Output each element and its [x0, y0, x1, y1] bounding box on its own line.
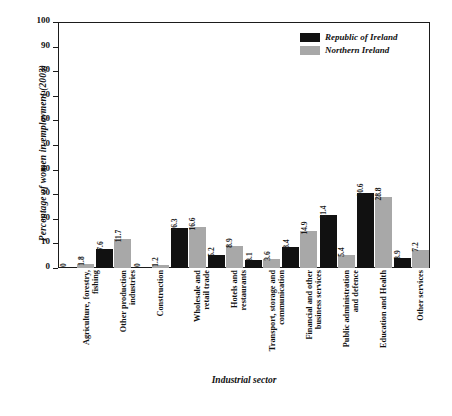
x-axis-category-labels: Agriculture, forestry, fishingOther prod…	[58, 270, 430, 370]
x-axis-category-label: Construction	[156, 270, 170, 366]
y-axis-tick-label: 60	[41, 113, 50, 123]
bar-value-label: 30.6	[356, 183, 365, 196]
bar-group: 21.45.4	[320, 22, 355, 268]
bar-value-label: 8.9	[225, 238, 234, 247]
bar-value-label: 21.4	[319, 206, 328, 219]
bar-northern-ireland: 11.7	[114, 239, 131, 268]
legend: Republic of Ireland Northern Ireland	[300, 32, 424, 58]
bar-republic-of-ireland: 3.1	[245, 260, 262, 268]
bar-republic-of-ireland: 7.6	[96, 249, 113, 268]
legend-label: Republic of Ireland	[325, 32, 398, 42]
y-axis-tick-mark	[53, 268, 58, 269]
bar-value-label: 3.6	[263, 251, 272, 260]
bar-value-label: 3.9	[393, 251, 402, 260]
bar-value-label: 1.2	[151, 257, 160, 266]
bar-value-label: 8.4	[282, 240, 291, 249]
y-axis-tick-label: 90	[41, 40, 50, 50]
bar-northern-ireland: 28.8	[375, 197, 392, 268]
x-axis-category-label: Wholesale and retail trade	[193, 270, 207, 366]
legend-label: Northern Ireland	[325, 45, 389, 55]
bar-group: 8.414.9	[282, 22, 317, 268]
bar-value-label: 0	[59, 263, 68, 267]
y-axis-tick-label: 20	[41, 212, 50, 222]
bar-republic-of-ireland: 30.6	[357, 193, 374, 268]
bar-northern-ireland: 7.2	[412, 250, 429, 268]
y-axis-tick-label: 80	[41, 64, 50, 74]
bar-northern-ireland: 1.8	[77, 264, 94, 268]
legend-swatch-icon-northern-ireland	[300, 46, 320, 55]
bar-group: 7.611.7	[96, 22, 131, 268]
bar-value-label: 1.8	[77, 256, 86, 265]
bar-republic-of-ireland: 21.4	[320, 215, 337, 268]
y-axis-tick-label: 100	[37, 15, 51, 25]
bar-republic-of-ireland: 16.3	[171, 228, 188, 268]
bar-group: 5.28.9	[208, 22, 243, 268]
bar-republic-of-ireland: 8.4	[282, 247, 299, 268]
bar-group: 16.316.6	[171, 22, 206, 268]
y-axis-tick-label: 70	[41, 89, 50, 99]
bar-northern-ireland: 1.2	[152, 265, 169, 268]
x-axis-category-label: Other production industries	[119, 270, 133, 366]
bar-republic-of-ireland: 5.2	[208, 255, 225, 268]
bar-northern-ireland: 3.6	[263, 259, 280, 268]
bar-value-label: 28.8	[374, 188, 383, 201]
bar-value-label: 16.3	[170, 218, 179, 231]
x-axis-category-label: Transport, storage and communication	[268, 270, 282, 366]
legend-item-northern-ireland: Northern Ireland	[300, 45, 424, 55]
bar-republic-of-ireland: 3.9	[394, 258, 411, 268]
bar-value-label: 16.6	[188, 218, 197, 231]
bar-chart: Percentage of women in employment (2003)…	[0, 0, 452, 416]
bar-value-label: 5.4	[337, 247, 346, 256]
x-axis-category-label: Financial and other business services	[305, 270, 319, 366]
bar-northern-ireland: 8.9	[226, 246, 243, 268]
bar-group: 01.2	[134, 22, 169, 268]
y-axis-tick-label: 0	[46, 261, 51, 271]
bar-value-label: 0	[133, 263, 142, 267]
y-axis-tick-label: 10	[41, 236, 50, 246]
bar-value-label: 3.1	[245, 253, 254, 262]
x-axis-title: Industrial sector	[58, 375, 430, 385]
bar-group: 3.13.6	[245, 22, 280, 268]
bar-northern-ireland: 5.4	[338, 255, 355, 268]
bar-value-label: 11.7	[114, 230, 123, 243]
y-axis-tick-label: 40	[41, 163, 50, 173]
x-axis-category-label: Education and Health	[379, 270, 393, 366]
x-axis-category-label: Agriculture, forestry, fishing	[82, 270, 96, 366]
bar-value-label: 7.2	[411, 243, 420, 252]
bar-northern-ireland: 14.9	[300, 231, 317, 268]
bar-group: 01.8	[59, 22, 94, 268]
x-axis-category-label: Public administration and defence	[342, 270, 356, 366]
bar-value-label: 7.6	[96, 242, 105, 251]
legend-swatch-icon-republic-of-ireland	[300, 33, 320, 42]
bar-value-label: 5.2	[207, 248, 216, 257]
y-axis-tick-label: 50	[41, 138, 50, 148]
legend-item-republic-of-ireland: Republic of Ireland	[300, 32, 424, 42]
bar-group: 3.97.2	[394, 22, 429, 268]
y-axis-tick-label: 30	[41, 187, 50, 197]
x-axis-category-label: Other services	[416, 270, 430, 366]
plot-area: 01.87.611.701.216.316.65.28.93.13.68.414…	[58, 22, 430, 268]
bar-group: 30.628.8	[357, 22, 392, 268]
bar-northern-ireland: 16.6	[189, 227, 206, 268]
bar-value-label: 14.9	[300, 222, 309, 235]
x-axis-category-label: Hotels and restaurants	[230, 270, 244, 366]
